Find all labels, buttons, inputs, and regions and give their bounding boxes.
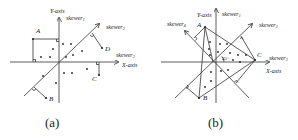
- point-b-b: [198, 97, 200, 99]
- skewer4-line-b: [185, 31, 249, 98]
- right-angle-b2: [240, 38, 243, 40]
- point-b-label: B: [49, 95, 54, 103]
- skewer2-label-a: skewer2: [106, 24, 125, 31]
- point-d: [101, 47, 103, 49]
- projection-b: [34, 87, 46, 98]
- point-b-label-b: B: [203, 94, 208, 102]
- panel-b: 45° Y-axis skewer1 skewer2 sk: [161, 9, 288, 130]
- data-dots-b: [204, 41, 247, 88]
- projection-b-skewer2: [186, 87, 199, 98]
- skewer1-label-a: skewer1: [66, 15, 85, 22]
- point-a-label: A: [35, 27, 41, 35]
- skewer1-label-b: skewer1: [222, 11, 241, 18]
- y-axis-label-b: Y-axis: [197, 12, 212, 18]
- projection-a-origin: [205, 27, 213, 62]
- point-a: [32, 38, 34, 40]
- right-angle-b: [32, 89, 36, 91]
- panel-a: Y-axis X-axis skewer1 skewer2 skewer3 A …: [10, 8, 138, 130]
- point-c-label: C: [92, 75, 97, 83]
- angle-label: 45°: [222, 56, 229, 61]
- data-dots-a: [40, 43, 88, 84]
- point-c-b: [254, 59, 256, 61]
- point-a-label-b: A: [196, 21, 202, 29]
- skewer3-label-b: skewer3: [269, 55, 288, 62]
- x-axis-label-b: X-axis: [265, 68, 282, 74]
- skewer4-label-b: skewer4: [167, 21, 186, 28]
- projection-c-skewer2: [241, 36, 255, 60]
- point-a-b: [204, 26, 206, 28]
- caption-a: (a): [45, 115, 59, 130]
- right-angle-d: [90, 35, 94, 37]
- projection-c-skewer4: [236, 60, 255, 83]
- caption-b: (b): [208, 115, 223, 130]
- y-axis-label-a: Y-axis: [50, 8, 65, 14]
- point-c: [98, 74, 100, 76]
- right-angle-b1: [196, 37, 198, 41]
- projection-a: [33, 39, 59, 62]
- diagram-canvas: Y-axis X-axis skewer1 skewer2 skewer3 A …: [0, 0, 298, 140]
- skewer3-label-a: skewer3: [116, 52, 135, 59]
- point-b: [45, 97, 47, 99]
- point-d-label: D: [104, 45, 110, 53]
- point-c-label-b: C: [257, 51, 262, 59]
- skewer2-label-b: skewer2: [259, 22, 278, 29]
- x-axis-label-a: X-axis: [121, 62, 138, 68]
